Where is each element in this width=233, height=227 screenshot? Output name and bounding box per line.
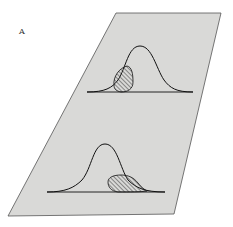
panel-label: A <box>19 27 25 36</box>
diagram-figure <box>0 0 233 227</box>
